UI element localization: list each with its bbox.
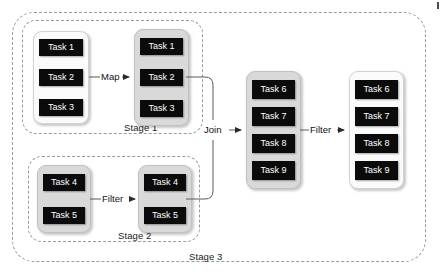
task-box[interactable]: Task 1 (140, 38, 183, 55)
task-group-stage3-input[interactable]: Task 6 Task 7 Task 8 Task 9 (246, 71, 301, 189)
task-box[interactable]: Task 4 (144, 174, 186, 191)
task-box[interactable]: Task 6 (252, 80, 295, 99)
task-box[interactable]: Task 5 (43, 207, 85, 224)
diagram-canvas: Stage 3 Stage 1 Stage 2 Task 1 Task 2 Ta… (0, 0, 444, 278)
connector-label-map: Map (100, 71, 120, 82)
task-box[interactable]: Task 3 (39, 99, 83, 116)
task-box[interactable]: Task 2 (39, 69, 83, 86)
task-box[interactable]: Task 7 (355, 107, 398, 126)
task-box[interactable]: Task 2 (140, 69, 183, 86)
task-box[interactable]: Task 5 (144, 207, 186, 224)
task-group-stage2-input[interactable]: Task 4 Task 5 (37, 165, 91, 233)
task-box[interactable]: Task 8 (252, 134, 295, 153)
task-box[interactable]: Task 9 (252, 161, 295, 180)
connector-label-filter-stage3: Filter (309, 124, 332, 135)
task-group-stage1-input[interactable]: Task 1 Task 2 Task 3 (33, 31, 89, 124)
task-group-stage3-output[interactable]: Task 6 Task 7 Task 8 Task 9 (349, 71, 404, 189)
task-box[interactable]: Task 6 (355, 80, 398, 99)
task-box[interactable]: Task 3 (140, 100, 183, 117)
task-group-stage2-output[interactable]: Task 4 Task 5 (138, 165, 192, 233)
task-box[interactable]: Task 4 (43, 174, 85, 191)
task-box[interactable]: Task 7 (252, 107, 295, 126)
task-box[interactable]: Task 9 (355, 161, 398, 180)
connector-label-join: Join (203, 124, 222, 135)
task-group-stage1-output[interactable]: Task 1 Task 2 Task 3 (134, 29, 189, 126)
connector-label-filter-stage2: Filter (101, 193, 124, 204)
task-box[interactable]: Task 1 (39, 39, 83, 56)
stage-3-label: Stage 3 (189, 251, 222, 262)
task-box[interactable]: Task 8 (355, 134, 398, 153)
corner-artifact (437, 2, 439, 9)
